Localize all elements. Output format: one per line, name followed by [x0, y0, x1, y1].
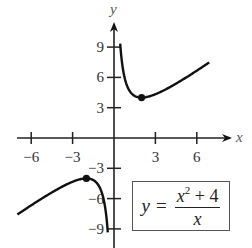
- x-axis-label: x: [235, 129, 243, 145]
- x-tick-label: 6: [193, 149, 201, 165]
- fraction: x2 + 4 x: [175, 185, 221, 228]
- denominator: x: [194, 208, 202, 228]
- x-tick-label: −6: [23, 149, 39, 165]
- y-tick-label: −9: [88, 221, 104, 237]
- equation-lhs: y: [142, 195, 150, 217]
- y-axis-label: y: [108, 1, 117, 17]
- equals-sign: =: [156, 195, 167, 217]
- y-tick-label: 3: [97, 100, 105, 116]
- numerator: x2 + 4: [175, 185, 221, 208]
- y-tick-label: 9: [97, 39, 105, 55]
- exponent: 2: [185, 184, 191, 196]
- x-tick-label: −3: [65, 149, 81, 165]
- x-tick-label: 3: [152, 149, 160, 165]
- numerator-var: x: [177, 186, 185, 206]
- marked-point: [83, 175, 90, 182]
- numerator-rest: + 4: [195, 186, 219, 206]
- equation: y = x2 + 4 x: [133, 182, 229, 230]
- marked-point: [138, 94, 145, 101]
- equation-box: y = x2 + 4 x: [132, 181, 230, 231]
- curve-right-branch: [120, 44, 209, 98]
- y-tick-label: −3: [88, 160, 104, 176]
- y-tick-label: 6: [97, 69, 105, 85]
